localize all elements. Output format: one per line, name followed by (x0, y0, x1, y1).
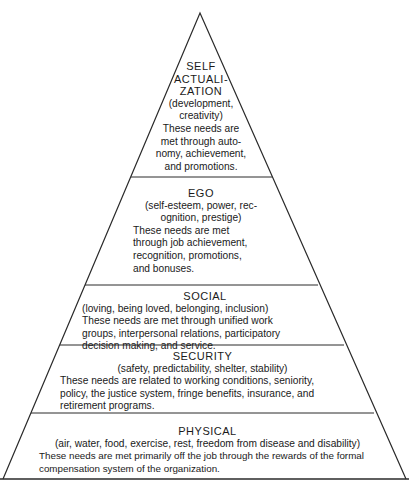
tier-description: (safety, predictability, shelter, stabil… (40, 363, 365, 376)
tier-title: SECURITY (40, 350, 365, 363)
tier-description: ognition, prestige) (116, 212, 286, 225)
tier-body: These needs are (140, 123, 262, 136)
tier-description: (self-esteem, power, rec- (116, 200, 286, 213)
tier-self-actualization: SELF ACTUALI- ZATION (development, creat… (140, 60, 262, 173)
tier-description: creativity) (140, 110, 262, 123)
tier-security: SECURITY (safety, predictability, shelte… (40, 350, 365, 413)
tier-title: SOCIAL (82, 290, 328, 303)
tier-body: These needs are met through unified work (82, 315, 328, 328)
tier-body: and bonuses. (133, 263, 286, 276)
tier-title: ZATION (140, 85, 262, 98)
tier-ego: EGO (self-esteem, power, rec- ognition, … (116, 187, 286, 275)
tier-body: recognition, promotions, (133, 250, 286, 263)
tier-body: policy, the justice system, fringe benef… (60, 388, 365, 401)
tier-title: ACTUALI- (140, 73, 262, 86)
tier-title: EGO (116, 187, 286, 200)
tier-description: (loving, being loved, belonging, inclusi… (82, 303, 328, 316)
tier-body: groups, interpersonal relations, partici… (82, 328, 328, 341)
tier-social: SOCIAL (loving, being loved, belonging, … (82, 290, 328, 353)
tier-body: These needs are met (133, 225, 286, 238)
tier-body: and promotions. (140, 161, 262, 174)
tier-title: SELF (140, 60, 262, 73)
tier-description: (air, water, food, exercise, rest, freed… (25, 438, 390, 451)
tier-body: met through auto- (140, 136, 262, 149)
tier-physical: PHYSICAL (air, water, food, exercise, re… (25, 425, 390, 475)
tier-body: through job achievement, (133, 237, 286, 250)
tier-body: compensation system of the organization. (39, 463, 390, 476)
tier-description: (development, (140, 98, 262, 111)
tier-body: These needs are met primarily off the jo… (39, 450, 390, 463)
tier-title: PHYSICAL (25, 425, 390, 438)
tier-body: These needs are related to working condi… (60, 375, 365, 388)
tier-body: nomy, achievement, (140, 148, 262, 161)
tier-body: retirement programs. (60, 400, 365, 413)
